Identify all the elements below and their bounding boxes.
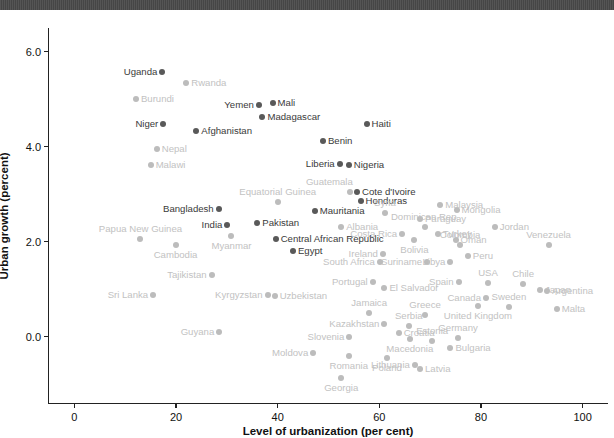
scatter-point[interactable] xyxy=(183,80,189,86)
scatter-point[interactable] xyxy=(475,303,481,309)
scatter-point[interactable] xyxy=(429,338,435,344)
scatter-point[interactable] xyxy=(422,312,428,318)
scatter-point[interactable] xyxy=(320,138,326,144)
scatter-point[interactable] xyxy=(154,146,160,152)
scatter-point-label: Jordan xyxy=(500,222,529,232)
scatter-point[interactable] xyxy=(265,292,271,298)
scatter-point[interactable] xyxy=(312,208,318,214)
x-axis-tick xyxy=(379,403,380,408)
scatter-point[interactable] xyxy=(422,224,428,230)
scatter-point-label: Sweden xyxy=(492,292,527,302)
scatter-point-label: Equatorial Guinea xyxy=(239,187,316,197)
scatter-point-label: Nepal xyxy=(162,144,187,154)
scatter-point[interactable] xyxy=(382,210,388,216)
scatter-point[interactable] xyxy=(354,189,360,195)
scatter-point[interactable] xyxy=(273,236,279,242)
scatter-point[interactable] xyxy=(173,242,179,248)
scatter-point[interactable] xyxy=(193,128,199,134)
scatter-point-label: Nigeria xyxy=(354,160,384,170)
scatter-point-label: Cambodia xyxy=(154,251,198,261)
scatter-point-label: Venezuela xyxy=(526,230,571,240)
scatter-point[interactable] xyxy=(338,375,344,381)
scatter-point-label: Pakistan xyxy=(262,218,299,228)
scatter-point[interactable] xyxy=(338,224,344,230)
scatter-point-label: Haiti xyxy=(372,120,391,130)
scatter-point[interactable] xyxy=(506,304,512,310)
scatter-point[interactable] xyxy=(160,121,166,127)
scatter-point[interactable] xyxy=(270,100,276,106)
scatter-point[interactable] xyxy=(209,272,215,278)
scatter-point[interactable] xyxy=(483,295,489,301)
y-axis-tick-label: 4.0 xyxy=(26,141,41,153)
scatter-point[interactable] xyxy=(256,102,262,108)
scatter-point[interactable] xyxy=(546,242,552,248)
scatter-point[interactable] xyxy=(137,236,143,242)
scatter-point-label: Rwanda xyxy=(191,78,226,88)
scatter-point[interactable] xyxy=(407,336,413,342)
scatter-point[interactable] xyxy=(396,330,402,336)
scatter-point[interactable] xyxy=(544,288,550,294)
scatter-point[interactable] xyxy=(259,114,265,120)
scatter-point[interactable] xyxy=(381,321,387,327)
scatter-point[interactable] xyxy=(485,280,491,286)
x-axis-tick xyxy=(582,403,583,408)
scatter-point[interactable] xyxy=(366,310,372,316)
scatter-point[interactable] xyxy=(455,335,461,341)
scatter-point[interactable] xyxy=(492,224,498,230)
x-axis-tick xyxy=(277,403,278,408)
scatter-point[interactable] xyxy=(310,350,316,356)
scatter-point[interactable] xyxy=(381,285,387,291)
scatter-point[interactable] xyxy=(411,237,417,243)
y-axis-tick-label: 2.0 xyxy=(26,236,41,248)
scatter-chart: Urban growth (percent) Level of urbaniza… xyxy=(0,10,614,438)
scatter-point[interactable] xyxy=(275,199,281,205)
y-axis-label: Urban growth (percent) xyxy=(0,152,10,279)
scatter-point[interactable] xyxy=(399,231,405,237)
scatter-point[interactable] xyxy=(148,162,154,168)
scatter-point[interactable] xyxy=(554,306,560,312)
scatter-point[interactable] xyxy=(346,162,352,168)
scatter-point[interactable] xyxy=(465,253,471,259)
scatter-point-label: Serbia xyxy=(395,311,423,321)
scatter-point[interactable] xyxy=(447,345,453,351)
scatter-point-label: Central African Republic xyxy=(281,234,384,244)
scatter-point[interactable] xyxy=(290,248,296,254)
x-axis-tick-label: 20 xyxy=(170,411,182,423)
scatter-point[interactable] xyxy=(228,233,234,239)
scatter-point[interactable] xyxy=(437,202,443,208)
scatter-point-label: Georgia xyxy=(324,384,358,394)
scatter-point[interactable] xyxy=(347,189,353,195)
scatter-point[interactable] xyxy=(370,279,376,285)
scatter-point[interactable] xyxy=(358,198,364,204)
scatter-point[interactable] xyxy=(216,329,222,335)
scatter-point[interactable] xyxy=(254,220,260,226)
scatter-point-label: Madagascar xyxy=(267,112,320,122)
scatter-point-label: Colombia xyxy=(440,231,481,241)
scatter-point-label: India xyxy=(202,220,223,230)
y-axis-tick xyxy=(44,336,49,337)
scatter-point[interactable] xyxy=(159,69,165,75)
scatter-point[interactable] xyxy=(216,206,222,212)
scatter-point[interactable] xyxy=(457,242,463,248)
scatter-point[interactable] xyxy=(346,353,352,359)
scatter-point[interactable] xyxy=(150,292,156,298)
scatter-point[interactable] xyxy=(224,222,230,228)
scatter-point-label: Syria xyxy=(374,198,396,208)
scatter-point-label: Burundi xyxy=(141,94,174,104)
scatter-point[interactable] xyxy=(537,287,543,293)
scatter-point[interactable] xyxy=(133,96,139,102)
scatter-point-label: Malta xyxy=(562,304,585,314)
scatter-point-label: Liberia xyxy=(306,159,335,169)
scatter-point-label: Kazakhstan xyxy=(329,319,379,329)
scatter-point-label: Benin xyxy=(328,137,353,147)
scatter-point[interactable] xyxy=(337,161,343,167)
scatter-point[interactable] xyxy=(520,281,526,287)
scatter-point[interactable] xyxy=(377,259,383,265)
scatter-point[interactable] xyxy=(364,121,370,127)
scatter-point[interactable] xyxy=(417,366,423,372)
scatter-point[interactable] xyxy=(456,279,462,285)
scatter-point-label: Guyana xyxy=(181,327,215,337)
scatter-point[interactable] xyxy=(346,334,352,340)
scatter-point[interactable] xyxy=(447,259,453,265)
scatter-point[interactable] xyxy=(272,293,278,299)
